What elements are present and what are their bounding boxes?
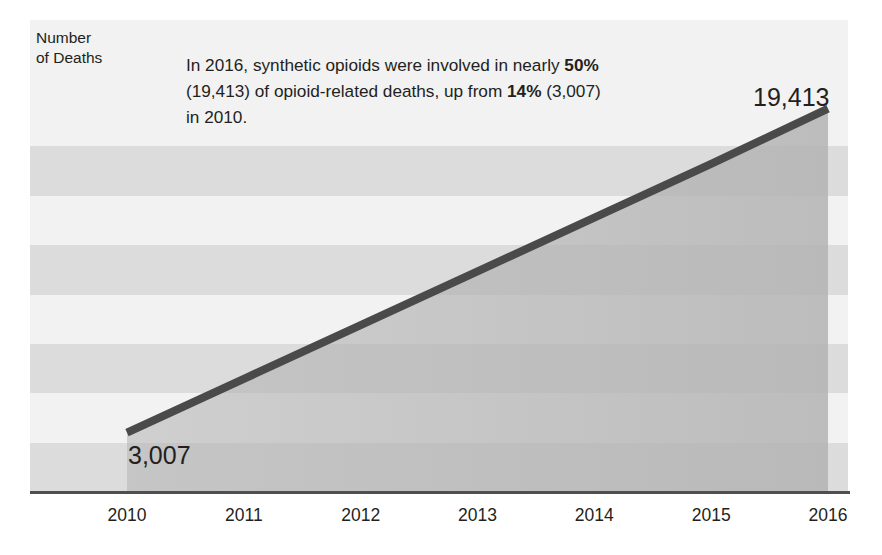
x-axis-tick-label: 2015	[651, 505, 771, 526]
background-band	[30, 344, 848, 393]
y-axis-title-line-1: Number	[36, 28, 102, 48]
x-axis-tick-label: 2016	[768, 505, 882, 526]
annotation-text: (19,413) of opioid-related deaths, up fr…	[186, 81, 507, 101]
x-axis-line	[30, 491, 850, 494]
annotation-emphasis: 14%	[507, 81, 541, 101]
x-axis-tick-label: 2010	[67, 505, 187, 526]
background-band	[30, 146, 848, 195]
x-axis-tick-label: 2014	[534, 505, 654, 526]
y-axis-title: Number of Deaths	[36, 28, 102, 69]
annotation-emphasis: 50%	[564, 55, 598, 75]
x-axis-tick-label: 2012	[301, 505, 421, 526]
chart-figure: 20,00015,00010,0005,0000 Number of Death…	[0, 0, 882, 555]
data-point-label-end: 19,413	[753, 85, 829, 110]
y-axis-title-line-2: of Deaths	[36, 48, 102, 68]
y-axis-tick-labels: 20,00015,00010,0005,0000	[0, 0, 122, 555]
x-axis-tick-label: 2011	[184, 505, 304, 526]
background-band	[30, 393, 848, 442]
summary-callout-annotation: In 2016, synthetic opioids were involved…	[186, 52, 616, 130]
background-band	[30, 196, 848, 245]
data-point-label-start: 3,007	[128, 443, 191, 468]
background-band	[30, 245, 848, 294]
annotation-text: In 2016, synthetic opioids were involved…	[186, 55, 564, 75]
x-axis-tick-label: 2013	[418, 505, 538, 526]
background-band	[30, 295, 848, 344]
